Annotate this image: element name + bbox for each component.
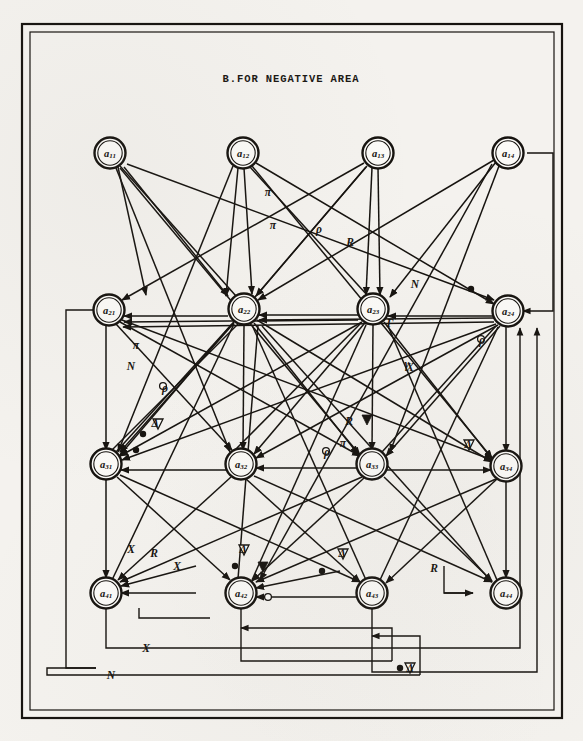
node-label-subscript: 33 — [370, 463, 379, 471]
edge-a13-a23b — [378, 168, 380, 295]
node-label-subscript: 21 — [107, 309, 115, 317]
edge-a32-a44 — [254, 476, 492, 582]
dot-marker — [319, 568, 325, 574]
edge-a14-a23 — [390, 162, 496, 297]
node-a32[interactable]: a32 — [226, 449, 257, 480]
ring-marker — [265, 594, 272, 601]
route-bus-to-a42 — [241, 628, 392, 661]
filled-triangle-marker — [362, 415, 372, 425]
node-a22[interactable]: a22 — [229, 294, 260, 325]
node-a21[interactable]: a21 — [94, 295, 125, 326]
edge-a14-a33 — [390, 166, 499, 452]
edge-a11-a32 — [116, 168, 230, 452]
node-a23[interactable]: a23 — [358, 294, 389, 325]
edge-a11-a22 — [124, 167, 228, 296]
node-a33[interactable]: a33 — [357, 449, 388, 480]
node-a13[interactable]: a13 — [363, 138, 394, 169]
node-a14[interactable]: a14 — [493, 138, 524, 169]
edge-label: Δ — [405, 662, 413, 674]
edge-label: π — [270, 219, 277, 231]
dot-marker — [397, 665, 403, 671]
diagram-page: B.FOR NEGATIVE AREA — [0, 0, 583, 741]
edge-label: X — [172, 560, 181, 572]
edge-label: ρ — [323, 446, 330, 459]
edge-label: π — [133, 339, 140, 351]
node-label-subscript: 34 — [504, 465, 513, 473]
edge-a31-a22b — [112, 324, 238, 450]
node-label-subscript: 24 — [506, 310, 515, 318]
node-a31[interactable]: a31 — [91, 449, 122, 480]
node-label-subscript: 44 — [504, 592, 513, 600]
edge-label: π — [265, 186, 272, 198]
dot-marker — [232, 563, 238, 569]
node-label-subscript: 23 — [371, 308, 380, 316]
node-label-subscript: 22 — [242, 308, 251, 316]
edge-label: X — [141, 642, 150, 654]
route-a42-bus — [241, 608, 392, 661]
node-a44[interactable]: a44 — [491, 578, 522, 609]
figure-title: B.FOR NEGATIVE AREA — [223, 73, 360, 85]
edge-label: ρ — [315, 223, 322, 236]
edge-label: ρ — [478, 334, 485, 347]
edge-a42-diag — [256, 571, 340, 588]
edge-a22-a11 — [120, 166, 236, 296]
edge-label: Δ — [337, 547, 345, 559]
edge-label: N — [106, 669, 116, 681]
node-label-subscript: 12 — [242, 152, 250, 160]
edge-label: R — [344, 415, 353, 427]
edge-label: X — [126, 543, 135, 555]
route-a44-left-stub — [444, 566, 473, 593]
dot-marker — [468, 286, 474, 292]
edge-label: Δ — [150, 417, 158, 429]
node-label-subscript: 11 — [109, 152, 116, 160]
edges-layer — [106, 160, 506, 597]
route-a41-short — [139, 608, 210, 618]
node-a12[interactable]: a12 — [228, 138, 259, 169]
edge-a12-a24 — [256, 163, 494, 304]
edge-a23-a33 — [372, 325, 373, 450]
route-a43-bus — [372, 328, 537, 672]
node-a42[interactable]: a42 — [226, 578, 257, 609]
route-bottom-n — [47, 668, 420, 675]
edge-label: N — [410, 278, 420, 290]
node-label-subscript: 42 — [239, 592, 248, 600]
edge-label: R — [149, 547, 158, 559]
node-label-subscript: 32 — [239, 463, 248, 471]
edge-label: R — [429, 562, 438, 574]
route-a21-left-bus — [66, 310, 96, 668]
node-label-subscript: 13 — [377, 152, 385, 160]
edge-label: X — [405, 361, 414, 373]
edge-a12-a31 — [118, 166, 233, 452]
node-a24[interactable]: a24 — [493, 296, 524, 327]
edge-a12-a22 — [226, 168, 238, 296]
edge-label: N — [126, 360, 136, 372]
node-a11[interactable]: a11 — [95, 138, 126, 169]
edge-label: Δ — [463, 438, 471, 450]
edge-label: R — [345, 236, 354, 248]
node-a34[interactable]: a34 — [491, 451, 522, 482]
node-label-subscript: 43 — [370, 592, 379, 600]
edge-label: ρ — [161, 382, 168, 395]
node-a43[interactable]: a43 — [357, 578, 388, 609]
dot-marker — [133, 447, 139, 453]
edge-a13-a21 — [122, 163, 364, 300]
node-label-subscript: 14 — [507, 152, 515, 160]
signal-flow-graph: B.FOR NEGATIVE AREA — [0, 0, 583, 741]
edge-labels: ππρRNπNρΓργXΔRπρΔXRXΔΔRXNΔ — [106, 186, 485, 681]
node-label-subscript: 31 — [104, 463, 112, 471]
edge-label: Γ — [386, 317, 394, 329]
dot-marker — [140, 431, 146, 437]
edge-label: π — [340, 437, 347, 449]
node-label-subscript: 41 — [104, 592, 112, 600]
edge-a14-a22 — [258, 160, 494, 300]
node-a41[interactable]: a41 — [91, 578, 122, 609]
edge-label: Δ — [238, 543, 246, 555]
route-a14-a24 — [523, 153, 553, 311]
edge-a22-a34 — [257, 320, 492, 462]
